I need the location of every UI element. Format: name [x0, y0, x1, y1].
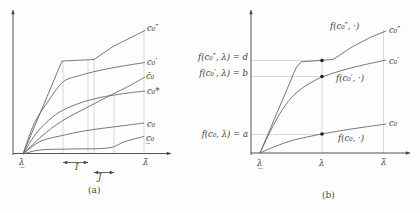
b-curve-label-c0: c₀ — [389, 119, 397, 128]
b-x-label-lambda-bar: λ̄ — [381, 158, 386, 167]
panel-b-marker-dot — [320, 59, 324, 63]
figure-canvas — [0, 0, 420, 213]
panel-b-marker-dot — [320, 132, 324, 136]
b-annotation-c0-doubleprime: f(c₀″, ·) — [330, 22, 359, 31]
a-curve-label-c0-doubleprime: c₀″ — [147, 24, 158, 33]
b-y-label-b: f(c₀′, λ) = b — [199, 69, 248, 78]
panel-b-x-axis-arrowhead — [406, 151, 410, 154]
panel-a-interval-J-arrowhead-right — [110, 171, 114, 174]
b-curve-label-c0-prime: c₀′ — [389, 57, 399, 66]
panel-b-curve-c0-prime — [260, 60, 386, 153]
b-y-label-d: f(c₀″, λ) = d — [198, 53, 248, 62]
a-curve-label-c0-bar: c̄₀ — [146, 72, 154, 81]
panel-a-curve-c0-prime — [23, 63, 145, 155]
panel-a-curve-c0-bar — [23, 77, 145, 154]
b-y-label-a: f(c₀, λ) = a — [202, 130, 248, 139]
a-curve-label-c0-star: c₀* — [147, 87, 159, 96]
b-annotation-c0-prime: f(c₀′, ·) — [336, 74, 364, 83]
a-curve-label-c0: c₀ — [147, 120, 155, 129]
panel-b-y-axis-arrowhead — [249, 10, 252, 14]
b-curve-label-c0-doubleprime: c₀″ — [389, 26, 400, 35]
b-x-label-lambda: λ — [319, 159, 324, 168]
a-interval-label-I: I — [75, 163, 78, 172]
panel-a-interval-I-arrowhead-right — [84, 161, 88, 164]
panel-a-curve-c0-doubleprime — [23, 31, 145, 155]
panel-a-curve-c0-star — [23, 91, 145, 154]
b-x-label-lambda-under: λ̲ — [257, 159, 262, 168]
panel-a-y-axis-arrowhead — [11, 10, 14, 14]
a-x-label-lambda-under: λ̲ — [19, 158, 24, 167]
a-curve-label-c0-prime: c₀′ — [147, 58, 157, 67]
figure-page: { "figure": { "colors": { "background": … — [0, 0, 420, 213]
panel-a-curve-c0-underline — [23, 137, 144, 155]
a-curve-label-c0-underline: c̲₀ — [146, 134, 154, 143]
panel-a-x-axis-arrowhead — [167, 152, 171, 155]
panel-b-curve-c0 — [260, 124, 386, 153]
caption-b: (b) — [322, 191, 335, 200]
caption-a: (a) — [88, 186, 100, 195]
a-x-label-lambda-bar: λ̄ — [143, 158, 148, 167]
b-annotation-c0: f(c₀, ·) — [338, 134, 364, 143]
panel-b-marker-dot — [320, 75, 324, 79]
panel-a-interval-I-arrowhead-left — [63, 161, 67, 164]
a-interval-label-J: J — [98, 173, 101, 182]
